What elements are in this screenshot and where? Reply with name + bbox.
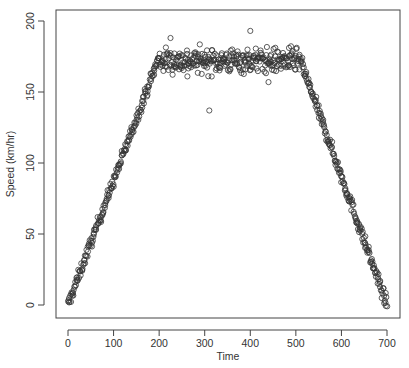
- data-point: [197, 42, 202, 47]
- data-point: [263, 71, 268, 76]
- data-point: [184, 48, 189, 53]
- x-tick-label: 700: [378, 337, 396, 349]
- data-point: [170, 72, 175, 77]
- data-point: [210, 48, 215, 53]
- data-points: [66, 28, 390, 309]
- data-point: [204, 48, 209, 53]
- x-tick-label: 400: [242, 337, 260, 349]
- data-point: [235, 49, 240, 54]
- speed-time-scatter-chart: 0100200300400500600700 050100150200 Time…: [0, 0, 409, 368]
- y-tick-label: 200: [24, 12, 36, 30]
- y-tick-label: 50: [24, 228, 36, 240]
- data-point: [185, 74, 190, 79]
- data-point: [264, 44, 269, 49]
- y-tick-label: 100: [24, 154, 36, 172]
- y-tick-label: 0: [24, 302, 36, 308]
- data-point: [207, 108, 212, 113]
- x-tick-label: 300: [196, 337, 214, 349]
- x-tick-label: 600: [333, 337, 351, 349]
- x-axis-label: Time: [217, 350, 240, 362]
- x-tick-label: 500: [287, 337, 305, 349]
- x-tick-label: 200: [150, 337, 168, 349]
- x-axis: 0100200300400500600700: [65, 330, 396, 349]
- data-point: [163, 45, 168, 50]
- x-tick-label: 100: [105, 337, 123, 349]
- data-point: [168, 35, 173, 40]
- y-tick-label: 150: [24, 83, 36, 101]
- y-axis: 050100150200: [24, 12, 44, 308]
- x-tick-label: 0: [65, 337, 71, 349]
- y-axis-label: Speed (km/hr): [4, 131, 16, 198]
- data-point: [209, 74, 214, 79]
- data-point: [266, 80, 271, 85]
- data-point: [245, 47, 250, 52]
- data-point: [248, 28, 253, 33]
